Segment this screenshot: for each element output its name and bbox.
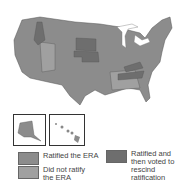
alaska-inset	[13, 114, 46, 146]
legend-ratified: Ratified the ERA	[18, 152, 99, 165]
hawaii-inset	[49, 114, 85, 146]
swatch-ratified	[18, 152, 39, 165]
region-not-ratified-west	[40, 42, 55, 72]
legend-label: Ratified the ERA	[43, 152, 99, 160]
swatch-rescinded	[106, 150, 127, 163]
us-map	[0, 0, 185, 115]
legend-rescinded: Ratified and then voted to rescind ratif…	[106, 150, 179, 182]
swatch-not-ratified	[18, 166, 39, 179]
legend-label: Ratified and then voted to rescind ratif…	[131, 150, 179, 182]
legend-not-ratified: Did not ratify the ERA	[18, 166, 87, 182]
state-south-dakota	[76, 38, 96, 51]
legend-label: Did not ratify the ERA	[43, 166, 87, 182]
